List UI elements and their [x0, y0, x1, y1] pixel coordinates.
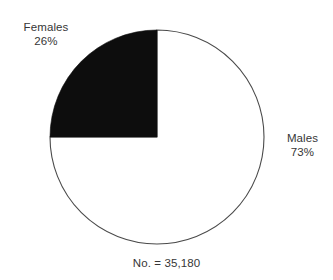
- pie-chart-figure: Females 26% Males 73% No. = 35,180: [0, 0, 333, 280]
- pie-label-males-percent: 73%: [272, 145, 333, 159]
- pie-label-males-name: Males: [272, 131, 333, 145]
- pie-label-males: Males 73%: [272, 131, 333, 159]
- pie-label-females: Females 26%: [0, 20, 92, 48]
- pie-label-females-percent: 26%: [0, 34, 92, 48]
- chart-caption: No. = 35,180: [0, 256, 333, 270]
- pie-label-females-name: Females: [0, 20, 92, 34]
